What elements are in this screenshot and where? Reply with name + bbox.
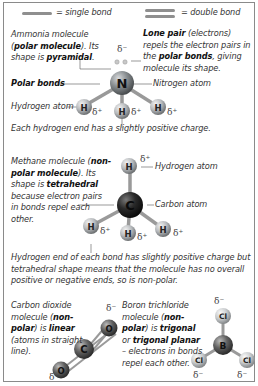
bcl3-description: Boron trichloride molecule (non-polar) i… xyxy=(122,300,204,369)
h-charge: δ⁺ xyxy=(137,232,147,242)
ammonia-caption: Each hydrogen end has a slightly positiv… xyxy=(11,123,211,135)
o-charge: δ⁻ xyxy=(49,372,59,382)
svg-text:Cl: Cl xyxy=(243,356,251,365)
h-charge: δ⁺ xyxy=(131,107,141,117)
svg-text:B: B xyxy=(220,341,227,351)
h-charge: δ⁺ xyxy=(140,154,150,164)
svg-text:H: H xyxy=(125,162,132,172)
svg-text:H: H xyxy=(159,225,166,235)
polar-bonds-label: Polar bonds xyxy=(11,78,65,90)
svg-text:H: H xyxy=(124,229,131,239)
svg-text:H: H xyxy=(80,103,87,113)
co2-description: Carbon dioxide molecule (non-polar) is l… xyxy=(11,300,93,358)
h-charge: δ⁺ xyxy=(173,228,183,238)
svg-text:H: H xyxy=(154,103,161,113)
cl-charge: δ⁻ xyxy=(214,296,224,306)
svg-text:O: O xyxy=(105,324,112,334)
nitrogen-atom-label: Nitrogen atom xyxy=(153,78,211,90)
legend-single-bond: = single bond xyxy=(56,7,112,19)
carbon-atom-label: Carbon atom xyxy=(155,199,207,211)
svg-text:N: N xyxy=(117,76,128,91)
svg-text:C: C xyxy=(125,198,135,213)
svg-text:Cl: Cl xyxy=(219,312,227,321)
methane-description: Methane molecule (non-polar molecule). I… xyxy=(11,156,111,225)
legend-double-bond: = double bond xyxy=(181,7,240,19)
methane-caption: Hydrogen end of each bond has slightly p… xyxy=(11,252,251,287)
methane-hydrogen-label: Hydrogen atom xyxy=(155,161,218,173)
cl-charge: δ⁻ xyxy=(237,370,247,380)
lone-pair-charge: δ⁻ xyxy=(117,44,127,54)
single-bond-icon xyxy=(22,12,52,15)
ammonia-description: Ammonia molecule (polar molecule). Its s… xyxy=(11,29,111,64)
lone-pair-description: Lone pair (electrons) repels the electro… xyxy=(143,28,255,74)
svg-text:H: H xyxy=(118,107,125,117)
double-bond-icon xyxy=(145,9,175,18)
h-charge: δ⁺ xyxy=(100,226,110,236)
o-charge: δ⁻ xyxy=(106,303,116,313)
hydrogen-atom-label: Hydrogen atom xyxy=(11,101,74,113)
h-charge: δ⁺ xyxy=(92,107,102,117)
h-charge: δ⁺ xyxy=(167,107,177,117)
cl-charge: δ⁻ xyxy=(193,370,203,380)
